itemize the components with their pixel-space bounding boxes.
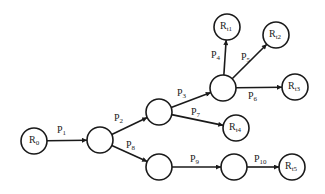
edge-label-p8: P8 <box>126 139 136 152</box>
edge-label-p1: P1 <box>57 124 67 137</box>
edge-E-Rt1 <box>224 40 226 75</box>
diagram-canvas: R0Rt1Rt2Rt3Rt4Rt5 P1P2P3P4P5P6P7P8P9P10 <box>0 0 325 194</box>
edge-label-p4: P4 <box>211 49 221 62</box>
edge-label-p6: P6 <box>248 90 258 103</box>
nodes-layer: R0Rt1Rt2Rt3Rt4Rt5 <box>21 14 308 180</box>
edge-label-p2: P2 <box>114 112 124 125</box>
node-circle <box>87 127 113 153</box>
node-r0: R0 <box>21 128 47 154</box>
node-rt1: Rt1 <box>214 14 240 40</box>
node-rt5: Rt5 <box>279 154 305 180</box>
arrow-icon <box>236 87 282 88</box>
edge-R0-A <box>47 140 87 141</box>
node-d <box>221 154 247 180</box>
edge-label-p7: P7 <box>191 106 201 119</box>
node-circle <box>146 154 172 180</box>
node-c <box>146 154 172 180</box>
arrow-icon <box>224 40 226 75</box>
edge-label-p9: P9 <box>190 153 200 166</box>
edge-E-Rt3 <box>236 87 282 88</box>
node-circle <box>221 154 247 180</box>
node-e <box>210 75 236 101</box>
tree-diagram: R0Rt1Rt2Rt3Rt4Rt5 P1P2P3P4P5P6P7P8P9P10 <box>0 0 325 194</box>
node-b <box>146 99 172 125</box>
node-circle <box>210 75 236 101</box>
node-rt4: Rt4 <box>223 115 249 141</box>
edge-label-p10: P10 <box>254 153 267 166</box>
edge-label-p5: P5 <box>241 51 251 64</box>
node-rt3: Rt3 <box>282 74 308 100</box>
node-a <box>87 127 113 153</box>
arrow-icon <box>47 140 87 141</box>
edge-label-p3: P3 <box>177 87 187 100</box>
node-circle <box>146 99 172 125</box>
node-rt2: Rt2 <box>263 22 289 48</box>
